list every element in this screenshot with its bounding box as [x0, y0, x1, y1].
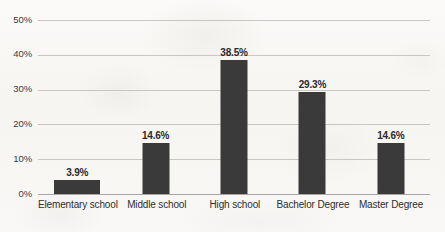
bar-slot-high-school: 38.5% — [195, 20, 273, 194]
bar-bachelor-degree[interactable] — [299, 92, 326, 194]
x-axis-label-bachelor-degree: Bachelor Degree — [274, 199, 352, 210]
x-axis-label-high-school: High school — [196, 199, 274, 210]
x-axis-label-middle-school: Middle school — [118, 199, 196, 210]
bar-slot-master-degree: 14.6% — [352, 20, 430, 194]
bar-value-label-elementary-school: 3.9% — [66, 167, 88, 178]
bar-slot-elementary-school: 3.9% — [38, 20, 116, 194]
y-axis-tick-50: 50% — [0, 14, 32, 25]
bar-value-label-master-degree: 14.6% — [377, 130, 404, 141]
bar-slot-bachelor-degree: 29.3% — [273, 20, 351, 194]
x-axis-label-elementary-school: Elementary school — [38, 199, 118, 210]
y-axis-tick-0: 0% — [0, 188, 32, 199]
bar-series: 3.9% 14.6% 38.5% 29.3% 14.6% — [38, 20, 430, 194]
y-axis-tick-40: 40% — [0, 48, 32, 59]
bar-master-degree[interactable] — [377, 143, 404, 194]
bar-value-label-middle-school: 14.6% — [142, 130, 169, 141]
y-axis-tick-10: 10% — [0, 153, 32, 164]
y-axis-tick-30: 30% — [0, 83, 32, 94]
bar-value-label-high-school: 38.5% — [220, 47, 247, 58]
x-axis-label-master-degree: Master Degree — [352, 199, 430, 210]
x-axis-category-labels: Elementary school Middle school High sch… — [38, 199, 430, 210]
bar-high-school[interactable] — [221, 60, 248, 194]
x-axis-line — [38, 194, 430, 195]
bar-elementary-school[interactable] — [54, 180, 100, 194]
bar-middle-school[interactable] — [142, 143, 169, 194]
y-axis-tick-20: 20% — [0, 118, 32, 129]
bar-slot-middle-school: 14.6% — [116, 20, 194, 194]
bar-value-label-bachelor-degree: 29.3% — [299, 79, 326, 90]
bar-chart: 50% 40% 30% 20% 10% 0% 3.9% 14.6% 38.5% … — [0, 0, 445, 232]
